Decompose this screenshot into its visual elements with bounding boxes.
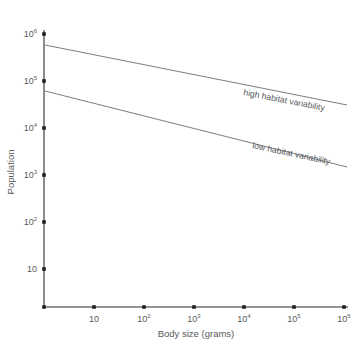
y-axis-title: Population [5,150,16,195]
y-tick-label: 104 [24,122,38,133]
series-label-low-habitat-variability: low habitat variability [252,140,332,166]
x-tick-label: 102 [137,313,151,324]
x-tick-label: 105 [287,313,301,324]
y-tick-dot [42,32,46,36]
y-tick-label: 10 [27,264,37,274]
y-tick-label: 103 [24,169,38,180]
x-tick-dot [292,305,296,309]
population-body-size-chart: 106 105 104 103 102 10 10 102 103 104 10… [0,0,352,346]
series-line-high-habitat-variability [45,45,347,105]
x-axis-tick-labels: 10 102 103 104 105 106 [89,313,351,324]
y-tick-label: 106 [24,28,38,39]
y-tick-dot [42,126,46,130]
x-tick-dot [342,305,346,309]
y-tick-dot [42,79,46,83]
x-tick-dot [192,305,196,309]
series-label-high-habitat-variability: high habitat variability [243,87,327,113]
y-tick-label: 102 [24,216,38,227]
x-tick-label: 106 [337,313,351,324]
y-axis-tick-labels: 106 105 104 103 102 10 [24,28,38,274]
chart-container: 106 105 104 103 102 10 10 102 103 104 10… [0,0,352,346]
y-tick-dot [42,267,46,271]
x-tick-dot [92,305,96,309]
y-tick-dot [42,220,46,224]
y-tick-dot [42,173,46,177]
x-tick-label: 103 [187,313,201,324]
x-axis-title: Body size (grams) [158,328,235,339]
y-tick-dot [42,305,46,309]
x-tick-label: 104 [237,313,251,324]
x-tick-label: 10 [89,314,99,324]
x-tick-dot [242,305,246,309]
x-tick-dot [142,305,146,309]
y-tick-label: 105 [24,75,38,86]
